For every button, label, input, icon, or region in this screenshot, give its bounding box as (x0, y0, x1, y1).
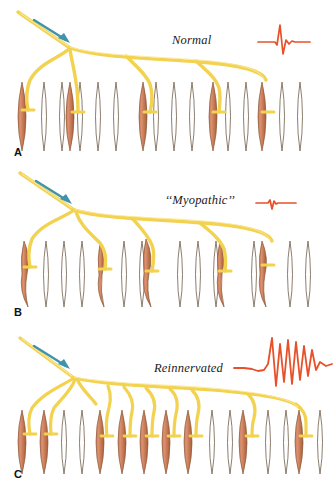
nerve-direction-arrow (34, 346, 70, 369)
grouped-innervated-fibers (18, 410, 303, 474)
panel-b: ‘‘Myopathic’’ B (0, 163, 336, 324)
nerve-direction-arrow (36, 181, 72, 204)
panel-b-graphic (0, 163, 336, 324)
panel-c: Reinnervated C (0, 324, 336, 485)
motor-unit-potential-myopathic (256, 200, 296, 209)
panel-letter-a: A (14, 146, 22, 158)
figure-root: Normal A (0, 0, 336, 485)
atrophic-innervated-fibers (21, 239, 266, 307)
panel-a-graphic (0, 0, 336, 163)
motor-unit-potential-reinnervated (234, 338, 332, 386)
condition-label-a: Normal (172, 33, 211, 48)
panel-c-graphic (0, 324, 336, 485)
condition-label-c: Reinnervated (154, 361, 223, 376)
panel-letter-c: C (14, 468, 22, 480)
innervated-fibers (18, 82, 266, 151)
panel-letter-b: B (14, 306, 22, 318)
nerve-direction-arrow (34, 20, 70, 43)
condition-label-b: ‘‘Myopathic’’ (165, 193, 235, 208)
uninnervated-fibers (44, 241, 311, 307)
panel-a: Normal A (0, 0, 336, 163)
motor-unit-potential-normal (258, 25, 310, 54)
axon-highlight (20, 13, 264, 79)
